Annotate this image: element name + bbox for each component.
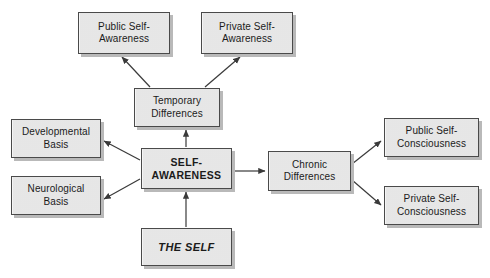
diagram-canvas: Public Self- AwarenessPrivate Self- Awar…: [0, 0, 490, 278]
node-label-self-awareness: SELF- AWARENESS: [150, 156, 224, 181]
node-label-public-self-awareness: Public Self- Awareness: [96, 21, 152, 46]
node-label-private-self-awareness: Private Self- Awareness: [217, 21, 277, 46]
node-the-self[interactable]: THE SELF: [141, 228, 232, 266]
node-label-developmental-basis: Developmental Basis: [20, 126, 92, 151]
node-chronic-differences[interactable]: Chronic Differences: [268, 151, 351, 191]
node-public-self-consciousness[interactable]: Public Self- Consciousness: [384, 118, 479, 157]
node-private-self-awareness[interactable]: Private Self- Awareness: [201, 12, 293, 54]
node-temporary-differences[interactable]: Temporary Differences: [134, 88, 220, 127]
node-label-private-self-consciousness: Private Self- Consciousness: [395, 193, 468, 218]
edge-temporary-differences-to-public-self-awareness: [122, 57, 150, 87]
edge-group: [104, 57, 381, 227]
edge-self-awareness-to-neurological-basis: [104, 179, 140, 199]
node-private-self-consciousness[interactable]: Private Self- Consciousness: [384, 186, 479, 225]
node-label-neurological-basis: Neurological Basis: [26, 183, 87, 208]
edge-temporary-differences-to-private-self-awareness: [205, 57, 240, 87]
edge-chronic-differences-to-private-self-consciousness: [352, 180, 381, 205]
node-self-awareness[interactable]: SELF- AWARENESS: [141, 148, 232, 189]
node-label-the-self: THE SELF: [156, 241, 216, 254]
node-neurological-basis[interactable]: Neurological Basis: [11, 176, 101, 215]
node-label-public-self-consciousness: Public Self- Consciousness: [395, 125, 468, 150]
node-label-temporary-differences: Temporary Differences: [149, 95, 205, 120]
node-label-chronic-differences: Chronic Differences: [282, 159, 338, 184]
edge-chronic-differences-to-public-self-consciousness: [352, 141, 381, 164]
edge-self-awareness-to-developmental-basis: [104, 141, 140, 160]
node-developmental-basis[interactable]: Developmental Basis: [11, 119, 101, 158]
node-public-self-awareness[interactable]: Public Self- Awareness: [78, 12, 170, 54]
